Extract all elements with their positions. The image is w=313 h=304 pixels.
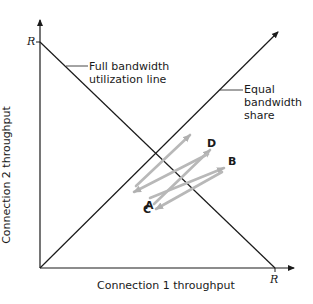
full-bandwidth-label-line1: Full bandwidth [89, 60, 169, 73]
y-axis-label: Connection 2 throughput [0, 106, 13, 244]
point-label-c: C [143, 203, 151, 216]
x-axis-label: Connection 1 throughput [97, 279, 235, 292]
x-axis-max-label: R [270, 273, 278, 286]
equal-share-label-line3: share [244, 109, 275, 122]
tcp-fairness-diagram [0, 0, 313, 304]
equal-share-label-line2: bandwidth [244, 96, 302, 109]
full-bandwidth-label-line2: utilization line [89, 73, 166, 86]
y-axis-max-label: R [27, 35, 35, 48]
point-label-d: D [207, 137, 216, 150]
point-label-b: B [228, 155, 236, 168]
equal-share-label-line1: Equal [244, 83, 275, 96]
